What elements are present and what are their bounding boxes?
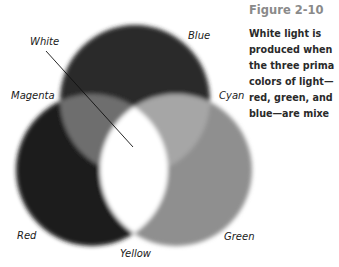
caption-line: produced when (249, 42, 339, 58)
label-yellow: Yellow (120, 248, 151, 259)
label-white: White (30, 36, 59, 47)
caption-line: colors of light— (249, 74, 339, 90)
label-red: Red (17, 230, 36, 241)
caption-line: the three prima (249, 58, 339, 74)
caption-line: blue—are mixe (249, 106, 339, 122)
label-green: Green (224, 231, 255, 242)
label-blue: Blue (188, 30, 210, 41)
label-cyan: Cyan (219, 90, 244, 101)
figure-title: Figure 2-10 (249, 3, 323, 17)
label-magenta: Magenta (11, 90, 55, 101)
caption-line: red, green, and (249, 90, 339, 106)
figure-caption: White light is produced when the three p… (249, 26, 339, 122)
caption-line: White light is (249, 26, 339, 42)
